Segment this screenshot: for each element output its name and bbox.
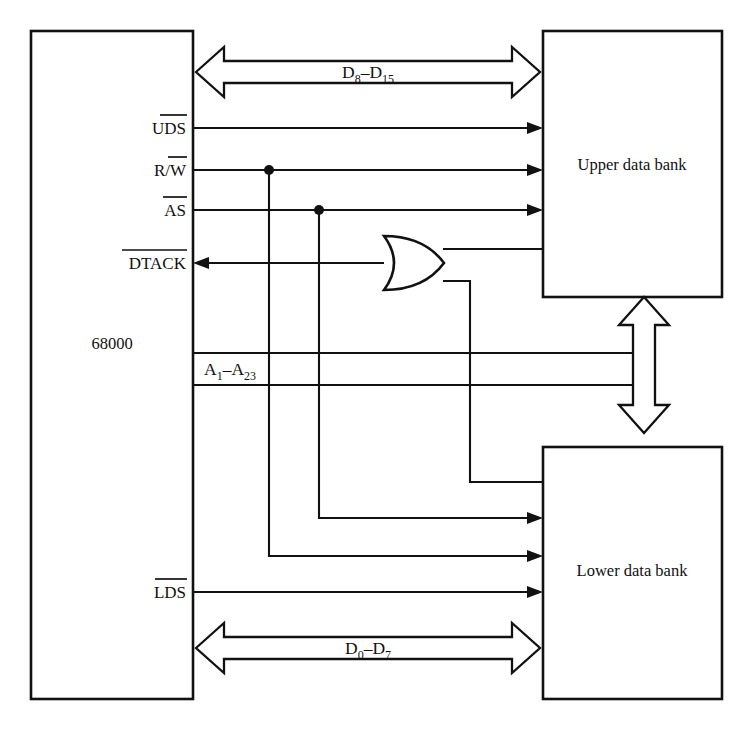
signal-lds-label: LDS [154,583,186,602]
diagram-canvas: 68000 Upper data bank Lower data bank D8… [0,0,751,729]
signal-rw-label: R/W [154,161,187,180]
arrowhead-rw-lower [527,550,543,562]
wire-or-output-to-lower[interactable] [443,281,543,482]
block-upper-data-bank-label: Upper data bank [577,155,687,174]
arrowhead-as-lower [527,512,543,524]
arrowhead-as-upper [527,204,543,216]
arrowhead-uds [527,122,543,134]
signal-as-label: AS [164,201,186,220]
arrowhead-lds [527,586,543,598]
bus-a1-a23-label: A1–A23 [204,359,256,383]
block-68000-label: 68000 [91,334,132,353]
block-lower-data-bank-label: Lower data bank [577,561,689,580]
signal-dtack-label: DTACK [129,254,187,273]
bus-a1-a23-arrow[interactable] [619,297,669,433]
block-diagram: 68000 Upper data bank Lower data bank D8… [0,0,751,729]
wire-rw-to-lower[interactable] [269,170,531,556]
arrowhead-dtack [193,257,209,269]
or-gate[interactable] [384,236,444,290]
arrowhead-rw-upper [527,164,543,176]
signal-uds-label: UDS [152,119,186,138]
